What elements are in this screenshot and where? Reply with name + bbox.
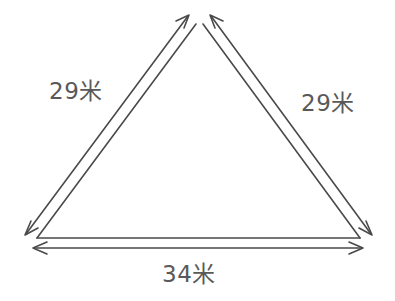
triangle-diagram-canvas xyxy=(0,0,395,301)
geometry-figure: 29米 29米 34米 xyxy=(0,0,395,301)
triangle-outline xyxy=(37,24,360,238)
left-dimension-shaft xyxy=(26,16,188,234)
triangle-left-edge xyxy=(37,24,196,238)
left-side-length-label: 29米 xyxy=(49,80,103,103)
right-dimension-line xyxy=(210,15,372,235)
base-length-label: 34米 xyxy=(162,263,216,286)
right-dimension-shaft xyxy=(211,16,371,234)
left-dimension-line xyxy=(25,15,189,235)
right-side-length-label: 29米 xyxy=(301,92,355,115)
base-dimension-line xyxy=(33,242,363,254)
triangle-right-edge xyxy=(203,24,360,238)
